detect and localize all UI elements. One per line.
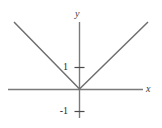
absolute-value-curve — [14, 22, 148, 89]
absolute-value-graph-figure: y x 1 -1 — [0, 0, 162, 128]
plot-canvas — [0, 0, 162, 128]
y-axis-label: y — [75, 9, 79, 19]
tick-label-positive-one: 1 — [57, 62, 68, 72]
x-axis-label: x — [146, 84, 150, 94]
tick-label-negative-one: -1 — [50, 106, 68, 116]
